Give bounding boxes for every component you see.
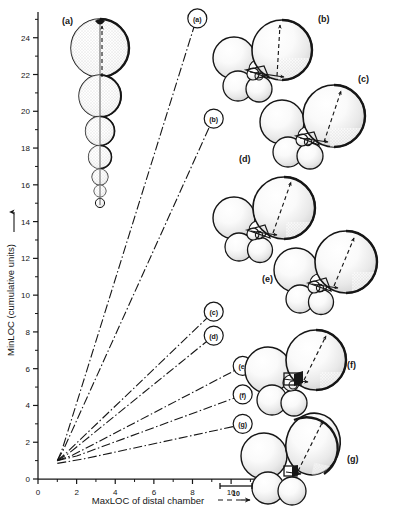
callout-d[interactable]: (d) — [204, 326, 223, 345]
y-axis-label: MinLOC (cumulative units) — [5, 244, 16, 356]
callout-a[interactable]: (a) — [188, 9, 207, 28]
callout-label: (b) — [209, 116, 218, 124]
x-tick-label: 0 — [36, 488, 41, 497]
callout-f[interactable]: (f) — [233, 385, 252, 404]
y-tick-label: 12 — [21, 254, 30, 263]
y-tick-label: 2 — [26, 438, 31, 447]
callout-label: (c) — [209, 309, 218, 317]
diagram-a-label: (a) — [62, 16, 73, 26]
callout-label: (a) — [193, 16, 202, 24]
y-tick-label: 16 — [21, 181, 30, 190]
diagram-f-label: (f) — [347, 360, 356, 370]
figure-svg: 0246810024681012141618202224 MinLOC (cum… — [0, 0, 394, 526]
diagram-b-label: (b) — [318, 14, 330, 24]
y-tick-label: 6 — [26, 365, 31, 374]
y-tick-label: 20 — [21, 107, 30, 116]
y-tick-label: 0 — [26, 475, 31, 484]
y-tick-label: 10 — [21, 291, 30, 300]
diagram-d-label: (d) — [239, 154, 251, 164]
diagram-c-label: (c) — [358, 74, 369, 84]
y-tick-label: 4 — [26, 401, 31, 410]
figure-canvas: 0246810024681012141618202224 MinLOC (cum… — [0, 0, 394, 526]
callout-c[interactable]: (c) — [204, 302, 223, 321]
x-axis-label: MaxLOC of distal chamber — [92, 495, 204, 506]
diagram-g-label: (g) — [347, 454, 359, 464]
y-tick-label: 14 — [21, 218, 30, 227]
callout-label: (f) — [239, 392, 246, 400]
y-tick-label: 8 — [26, 328, 31, 337]
y-tick-label: 22 — [21, 71, 30, 80]
callout-label: (g) — [238, 421, 247, 429]
callout-b[interactable]: (b) — [204, 109, 223, 128]
y-tick-label: 18 — [21, 144, 30, 153]
diagram-e-label: (e) — [262, 274, 273, 284]
callout-label: (d) — [209, 333, 218, 341]
y-tick-label: 24 — [21, 34, 30, 43]
callout-g[interactable]: (g) — [233, 414, 252, 433]
x-tick-label: 2 — [74, 488, 79, 497]
scale-bar-label: 10 — [232, 490, 240, 497]
